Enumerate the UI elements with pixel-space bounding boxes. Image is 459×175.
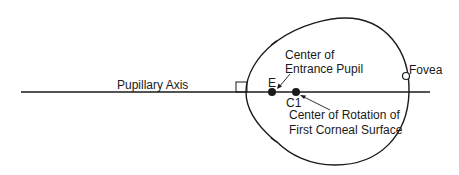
fovea-label: Fovea bbox=[409, 63, 442, 77]
entrance-pupil-marker-label: E bbox=[268, 76, 276, 90]
corneal-junction-lower bbox=[271, 138, 277, 142]
diagram-canvas bbox=[0, 0, 459, 175]
entrance-pupil-label-line1: Center of bbox=[285, 48, 334, 62]
corneal-center-point bbox=[292, 88, 300, 96]
corneal-center-label-line1: Center of Rotation of bbox=[289, 108, 400, 122]
pupillary-axis-label: Pupillary Axis bbox=[117, 78, 188, 92]
corneal-junction-upper bbox=[271, 41, 277, 45]
corneal-center-label-line2: First Corneal Surface bbox=[289, 123, 402, 137]
entrance-pupil-label-line2: Entrance Pupil bbox=[285, 62, 363, 76]
